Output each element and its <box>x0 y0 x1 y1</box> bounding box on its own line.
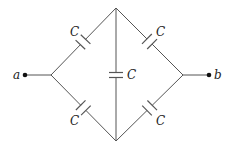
capacitor-label-bottom-left: C <box>70 114 79 128</box>
capacitor-label-top-left: C <box>70 25 79 39</box>
capacitor-middle <box>109 8 123 141</box>
terminal-b-label: b <box>214 68 222 82</box>
terminal-a-node <box>23 73 28 78</box>
capacitor-label-top-right: C <box>156 25 165 39</box>
capacitor-bottom-left <box>51 75 116 141</box>
circuit-diagram: a b C C C C C <box>0 0 229 148</box>
terminal-a-label: a <box>13 68 20 82</box>
capacitor-label-middle: C <box>127 68 136 82</box>
capacitor-label-bottom-right: C <box>156 114 165 128</box>
terminal-b-node <box>207 73 212 78</box>
capacitor-bottom-right <box>116 75 183 141</box>
capacitor-top-right <box>116 8 183 75</box>
capacitor-top-left <box>51 8 116 75</box>
